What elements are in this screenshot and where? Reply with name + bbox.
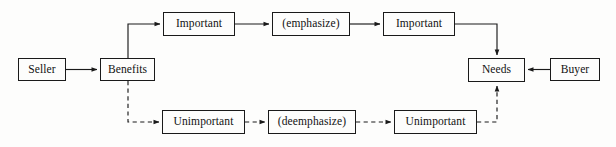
node-label-unimportant2: Unimportant: [406, 116, 466, 128]
diagram-canvas: SellerBenefitsImportant(emphasize)Import…: [0, 0, 616, 147]
node-buyer[interactable]: Buyer: [550, 58, 600, 81]
edge-benefits-to-important1: [128, 24, 160, 58]
node-unimportant1[interactable]: Unimportant: [162, 110, 245, 134]
node-label-seller: Seller: [28, 63, 55, 75]
node-unimportant2[interactable]: Unimportant: [394, 110, 477, 134]
node-label-benefits: Benefits: [108, 63, 147, 75]
node-benefits[interactable]: Benefits: [100, 58, 155, 81]
node-label-unimportant1: Unimportant: [174, 116, 234, 128]
node-seller[interactable]: Seller: [18, 58, 66, 81]
node-important2[interactable]: Important: [383, 12, 455, 36]
edge-benefits-to-unimportant1: [128, 81, 159, 122]
edge-important2-to-needs: [455, 24, 497, 55]
node-label-buyer: Buyer: [561, 63, 590, 75]
node-label-important1: Important: [176, 18, 222, 30]
node-deemphasize[interactable]: (deemphasize): [268, 110, 356, 134]
node-label-deemphasize: (deemphasize): [278, 116, 346, 128]
node-emphasize[interactable]: (emphasize): [272, 12, 350, 36]
node-label-emphasize: (emphasize): [282, 18, 339, 30]
node-label-important2: Important: [396, 18, 442, 30]
node-needs[interactable]: Needs: [468, 58, 525, 82]
node-important1[interactable]: Important: [163, 12, 235, 36]
node-label-needs: Needs: [482, 64, 511, 76]
edge-unimportant2-to-needs: [477, 86, 497, 122]
